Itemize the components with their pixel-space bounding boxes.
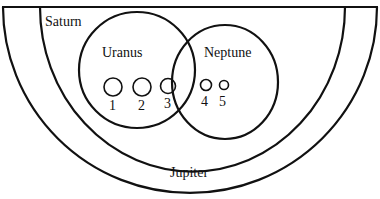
item-2-label: 2 [138,98,145,113]
uranus-region [79,12,195,128]
venn-diagram: Saturn Uranus Neptune Jupiter 1 2 3 4 5 [0,0,380,199]
item-3-marker [161,79,176,94]
item-5-marker [220,81,229,90]
jupiter-label: Jupiter [170,165,208,180]
item-4-label: 4 [201,94,208,109]
item-1-marker [104,78,122,96]
uranus-label: Uranus [102,45,142,60]
item-5-label: 5 [219,94,226,109]
item-3-label: 3 [164,96,171,111]
neptune-label: Neptune [204,45,251,60]
item-4-marker [201,80,212,91]
item-1-label: 1 [109,98,116,113]
item-2-marker [133,78,151,96]
saturn-label: Saturn [45,14,82,29]
